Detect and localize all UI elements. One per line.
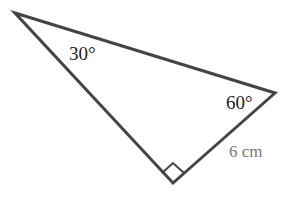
angle-label-30: 30° <box>69 43 96 64</box>
right-angle-marker <box>162 163 184 173</box>
angle-label-60: 60° <box>226 92 253 113</box>
side-length-label: 6 cm <box>229 142 263 161</box>
right-triangle-diagram: 30° 60° 6 cm <box>0 0 293 198</box>
